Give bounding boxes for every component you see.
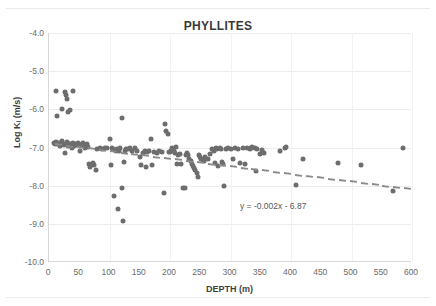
trendline-dash-segment bbox=[284, 172, 291, 175]
trendline-dash-segment bbox=[240, 167, 247, 170]
data-point bbox=[107, 137, 112, 142]
trendline-dash-segment bbox=[99, 149, 106, 152]
x-axis-title: DEPTH (m) bbox=[48, 284, 411, 294]
x-axis-tick-label: 300 bbox=[222, 267, 236, 277]
trendline-dash-segment bbox=[317, 176, 324, 179]
data-point bbox=[301, 156, 306, 161]
y-axis-tick-label: -6.0 bbox=[2, 104, 44, 114]
trendline-dash-segment bbox=[382, 185, 389, 188]
data-point bbox=[119, 115, 124, 120]
trendline-dash-segment bbox=[295, 174, 302, 177]
data-point bbox=[177, 152, 182, 157]
data-point bbox=[67, 108, 72, 113]
y-axis-title: Log Ki (m/s) bbox=[12, 97, 22, 148]
y-axis-tick-label: -7.0 bbox=[2, 143, 44, 153]
data-point bbox=[161, 191, 166, 196]
data-point bbox=[143, 164, 148, 169]
trendline-dash-segment bbox=[197, 161, 204, 164]
x-axis-tick-label: 250 bbox=[192, 267, 206, 277]
y-axis-tick-label: -8.0 bbox=[2, 181, 44, 191]
trendline-dash-segment bbox=[208, 163, 215, 166]
trendline-dash-segment bbox=[131, 153, 138, 156]
data-point bbox=[165, 132, 170, 137]
data-point bbox=[359, 162, 364, 167]
trendline-dash-segment bbox=[339, 179, 346, 182]
data-point bbox=[195, 174, 200, 179]
x-axis-tick-label: 350 bbox=[253, 267, 267, 277]
trendline-dash-segment bbox=[404, 187, 411, 190]
data-point bbox=[54, 89, 59, 94]
data-point bbox=[284, 144, 289, 149]
x-axis-tick-label: 50 bbox=[74, 267, 83, 277]
trendline-dash-segment bbox=[273, 171, 280, 174]
data-point bbox=[163, 121, 168, 126]
data-point bbox=[230, 156, 235, 161]
gridline-vertical bbox=[352, 33, 353, 261]
top-divider bbox=[6, 8, 430, 9]
data-point bbox=[91, 163, 96, 168]
x-axis-tick-label: 550 bbox=[374, 267, 388, 277]
data-point bbox=[94, 168, 99, 173]
data-point bbox=[243, 161, 248, 166]
data-point bbox=[60, 106, 65, 111]
data-point bbox=[71, 89, 76, 94]
trendline-dash-segment bbox=[360, 182, 367, 185]
data-point bbox=[262, 151, 267, 156]
data-point bbox=[148, 137, 153, 142]
chart-container: PHYLLITES -4.0-5.0-6.0-7.0-8.0-9.0-10.0 … bbox=[0, 0, 436, 306]
y-axis-tick-label: -4.0 bbox=[2, 28, 44, 38]
data-point bbox=[115, 207, 120, 212]
data-point bbox=[390, 189, 395, 194]
data-point bbox=[122, 160, 127, 165]
y-axis-tick-label: -10.0 bbox=[2, 257, 44, 267]
gridline-vertical bbox=[291, 33, 292, 261]
data-point bbox=[222, 183, 227, 188]
data-point bbox=[182, 186, 187, 191]
trendline-dash-segment bbox=[164, 157, 171, 160]
y-axis-tick-label: -5.0 bbox=[2, 66, 44, 76]
data-point bbox=[120, 219, 125, 224]
trendline-dash-segment bbox=[66, 145, 73, 148]
data-point bbox=[205, 156, 210, 161]
data-point bbox=[336, 160, 341, 165]
x-axis-tick-label: 450 bbox=[313, 267, 327, 277]
trendline-dash-segment bbox=[186, 160, 193, 163]
data-point bbox=[65, 96, 70, 101]
trendline-dash-segment bbox=[328, 178, 335, 181]
data-point bbox=[120, 186, 125, 191]
x-axis-tick-label: 400 bbox=[283, 267, 297, 277]
data-point bbox=[174, 144, 179, 149]
data-point bbox=[178, 161, 183, 166]
bottom-divider bbox=[6, 297, 430, 298]
data-point bbox=[400, 146, 405, 151]
data-point bbox=[112, 193, 117, 198]
trendline-dash-segment bbox=[262, 169, 269, 172]
plot-area bbox=[48, 33, 411, 262]
trendline-dash-segment bbox=[109, 150, 116, 153]
chart-title: PHYLLITES bbox=[0, 19, 436, 33]
trendline-dash-segment bbox=[88, 147, 95, 150]
x-axis-tick-label: 0 bbox=[46, 267, 51, 277]
data-point bbox=[108, 163, 113, 168]
trendline-dash-segment bbox=[153, 156, 160, 159]
y-axis-tick-label: -9.0 bbox=[2, 219, 44, 229]
gridline-vertical bbox=[412, 33, 413, 261]
x-axis-tick-label: 100 bbox=[101, 267, 115, 277]
trendline-dash-segment bbox=[120, 152, 127, 155]
trendline-dash-segment bbox=[142, 154, 149, 157]
x-axis-tick-label: 200 bbox=[162, 267, 176, 277]
x-axis-tick-label: 600 bbox=[404, 267, 418, 277]
data-point bbox=[159, 150, 164, 155]
x-axis-tick-label: 150 bbox=[132, 267, 146, 277]
data-point bbox=[149, 163, 154, 168]
data-point bbox=[293, 182, 298, 187]
trendline-equation-label: y = -0.002x - 6.87 bbox=[240, 201, 306, 211]
data-point bbox=[55, 113, 60, 118]
trendline-dash-segment bbox=[306, 175, 313, 178]
x-axis-tick-label: 500 bbox=[343, 267, 357, 277]
data-point bbox=[62, 150, 67, 155]
